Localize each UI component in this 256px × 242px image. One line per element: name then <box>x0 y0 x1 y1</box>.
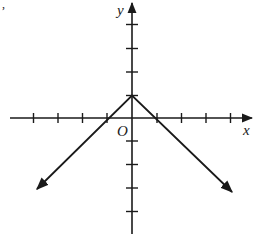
graph-line <box>37 96 232 193</box>
x-axis-label: x <box>242 122 250 138</box>
origin-label: O <box>117 123 128 139</box>
corner-mark: , <box>2 0 5 11</box>
y-axis-label: y <box>115 2 124 18</box>
function-graph: , y x O <box>0 0 256 242</box>
